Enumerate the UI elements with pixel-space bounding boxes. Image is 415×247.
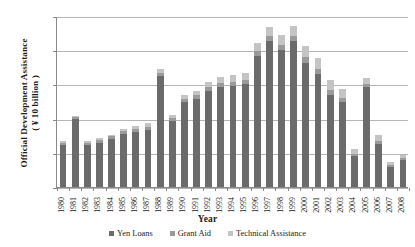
bar-segment-yen-loans-2002: [327, 95, 334, 187]
y-axis-title-line2: ( ¥ 10 billion ): [30, 75, 41, 131]
bar-segment-yen-loans-2000: [302, 63, 309, 187]
bar-segment-yen-loans-1984: [108, 139, 115, 187]
bar-segment-yen-loans-2008: [400, 160, 407, 187]
bar-segment-yen-loans-1981: [72, 119, 79, 187]
bar-segment-yen-loans-1994: [230, 86, 237, 187]
bar-2007[interactable]: [387, 162, 394, 187]
bar-segment-yen-loans-1995: [242, 84, 249, 187]
bar-1991[interactable]: [193, 91, 200, 187]
bar-1996[interactable]: [254, 43, 261, 187]
bar-1998[interactable]: [278, 35, 285, 187]
x-axis-title: Year: [0, 214, 415, 224]
bar-1997[interactable]: [266, 27, 273, 187]
bar-segment-yen-loans-1983: [96, 143, 103, 187]
bar-1986[interactable]: [132, 126, 139, 187]
legend-item-grant-aid[interactable]: Grant Aid: [170, 229, 211, 238]
bar-segment-technical-assistance-2002: [327, 80, 334, 90]
bar-segment-yen-loans-1990: [181, 102, 188, 187]
bar-1999[interactable]: [290, 26, 297, 187]
bar-2005[interactable]: [363, 78, 370, 187]
legend-swatch-icon: [170, 231, 175, 236]
bar-segment-yen-loans-1986: [132, 132, 139, 187]
bar-segment-technical-assistance-2001: [315, 58, 322, 68]
bar-segment-technical-assistance-1998: [278, 35, 285, 45]
bar-2002[interactable]: [327, 80, 334, 187]
bar-1995[interactable]: [242, 73, 249, 187]
bar-segment-technical-assistance-1996: [254, 43, 261, 51]
legend-swatch-icon: [109, 231, 114, 236]
bar-segment-yen-loans-1989: [169, 121, 176, 187]
oda-stacked-bar-chart: Official Development Assistance ( ¥ 10 b…: [0, 0, 415, 247]
bar-2008[interactable]: [400, 155, 407, 187]
bar-segment-yen-loans-2004: [351, 156, 358, 187]
bar-1985[interactable]: [120, 129, 127, 187]
bar-1987[interactable]: [145, 123, 152, 187]
chart-legend: Yen LoansGrant AidTechnical Assistance: [0, 229, 415, 238]
bar-segment-yen-loans-1985: [120, 134, 127, 187]
bar-segment-yen-loans-1980: [60, 145, 67, 187]
bar-1989[interactable]: [169, 115, 176, 187]
bar-2000[interactable]: [302, 46, 309, 187]
bar-segment-yen-loans-2001: [315, 74, 322, 187]
bar-segment-technical-assistance-2003: [339, 89, 346, 98]
bar-1983[interactable]: [96, 138, 103, 187]
legend-item-technical-assistance[interactable]: Technical Assistance: [228, 229, 306, 238]
bar-segment-technical-assistance-1999: [290, 26, 297, 36]
bar-segment-yen-loans-2006: [375, 144, 382, 187]
bar-segment-technical-assistance-1994: [230, 75, 237, 82]
bar-1982[interactable]: [84, 141, 91, 187]
y-axis-title: Official Development Assistance ( ¥ 10 b…: [13, 13, 47, 193]
bar-1994[interactable]: [230, 75, 237, 187]
legend-label: Yen Loans: [117, 229, 153, 238]
bar-2003[interactable]: [339, 89, 346, 187]
bar-segment-yen-loans-1987: [145, 130, 152, 187]
bar-2001[interactable]: [315, 58, 322, 187]
legend-label: Technical Assistance: [236, 229, 306, 238]
bar-segment-yen-loans-1988: [157, 76, 164, 187]
bar-1980[interactable]: [60, 141, 67, 187]
bar-segment-yen-loans-1996: [254, 56, 261, 187]
bar-segment-yen-loans-1992: [205, 91, 212, 187]
bar-segment-technical-assistance-2000: [302, 46, 309, 57]
bar-1988[interactable]: [157, 69, 164, 187]
x-axis-labels: 1980198119821983198419851986198719881989…: [56, 190, 408, 216]
bar-segment-technical-assistance-1997: [266, 27, 273, 36]
bar-segment-yen-loans-1997: [266, 41, 273, 187]
x-tick-mark-end: [409, 188, 410, 191]
legend-label: Grant Aid: [178, 229, 211, 238]
bar-segment-yen-loans-2005: [363, 87, 370, 187]
bar-1993[interactable]: [217, 77, 224, 187]
bar-segment-yen-loans-1999: [290, 41, 297, 187]
bar-1990[interactable]: [181, 95, 188, 187]
bar-segment-technical-assistance-1995: [242, 73, 249, 81]
plot-area: 0510152025: [56, 17, 408, 188]
bar-2004[interactable]: [351, 149, 358, 187]
bar-1981[interactable]: [72, 116, 79, 187]
bar-segment-yen-loans-1982: [84, 145, 91, 187]
bar-segment-yen-loans-2003: [339, 102, 346, 187]
gridline-0: [57, 188, 408, 189]
y-axis-title-line1: Official Development Assistance: [19, 38, 30, 167]
legend-swatch-icon: [228, 231, 233, 236]
bar-1984[interactable]: [108, 135, 115, 187]
bar-2006[interactable]: [375, 135, 382, 187]
bar-segment-yen-loans-1993: [217, 87, 224, 187]
bar-segment-yen-loans-1991: [193, 99, 200, 187]
legend-item-yen-loans[interactable]: Yen Loans: [109, 229, 153, 238]
bar-segment-yen-loans-2007: [387, 167, 394, 187]
bars-layer: [57, 17, 408, 187]
bar-1992[interactable]: [205, 82, 212, 187]
bar-segment-yen-loans-1998: [278, 50, 285, 187]
